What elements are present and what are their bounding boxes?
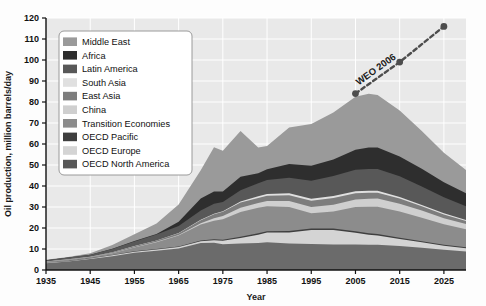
- y-tick-label: 40: [29, 181, 39, 191]
- legend-item-label: Transition Economies: [82, 119, 170, 129]
- y-tick-label: 90: [29, 76, 39, 86]
- legend-swatch: [63, 160, 77, 169]
- y-tick-label: 0: [34, 265, 39, 275]
- x-tick-label: 2015: [390, 276, 410, 286]
- x-tick-label: 1945: [80, 276, 100, 286]
- legend-item-label: OECD Europe: [82, 146, 141, 156]
- legend-item-label: Latin America: [82, 64, 139, 74]
- legend-swatch: [63, 51, 77, 60]
- x-tick-label: 1995: [301, 276, 321, 286]
- x-tick-label: 1985: [257, 276, 277, 286]
- y-tick-label: 100: [24, 55, 39, 65]
- svg-text:Oil production, million barrel: Oil production, million barrels/day: [3, 71, 13, 217]
- y-tick-label: 110: [24, 34, 39, 44]
- x-tick-label: 1965: [169, 276, 189, 286]
- legend-item-label: Africa: [82, 51, 106, 61]
- x-axis-title: Year: [246, 292, 266, 302]
- x-tick-label: 1975: [213, 276, 233, 286]
- legend-item-label: OECD North America: [82, 159, 170, 169]
- x-tick-label: 2025: [434, 276, 454, 286]
- legend-swatch: [63, 133, 77, 142]
- chart-canvas: WEO 2006 0102030405060708090100110120 19…: [0, 0, 486, 306]
- x-tick-label: 1935: [36, 276, 56, 286]
- legend-swatch: [63, 37, 77, 46]
- y-tick-label: 70: [29, 118, 39, 128]
- y-tick-label: 10: [29, 244, 39, 254]
- y-axis-ticks: 0102030405060708090100110120: [24, 13, 46, 275]
- svg-text:Year: Year: [246, 292, 266, 302]
- legend-item-label: China: [82, 105, 107, 115]
- y-tick-label: 80: [29, 97, 39, 107]
- legend-swatch: [63, 78, 77, 87]
- y-axis-title: Oil production, million barrels/day: [3, 71, 13, 217]
- legend-swatch: [63, 65, 77, 74]
- y-tick-label: 20: [29, 223, 39, 233]
- weo-2006-marker: [352, 90, 359, 97]
- legend-swatch: [63, 92, 77, 101]
- legend-item-label: Middle East: [82, 37, 130, 47]
- legend-item-label: South Asia: [82, 78, 127, 88]
- legend-swatch: [63, 105, 77, 114]
- legend-item-label: East Asia: [82, 91, 121, 101]
- y-tick-label: 120: [24, 13, 39, 23]
- legend-swatch: [63, 146, 77, 155]
- x-tick-label: 2005: [345, 276, 365, 286]
- oil-production-chart: WEO 2006 0102030405060708090100110120 19…: [0, 0, 486, 306]
- legend: Middle EastAfricaLatin AmericaSouth Asia…: [59, 31, 192, 175]
- x-tick-label: 1955: [124, 276, 144, 286]
- legend-item-label: OECD Pacific: [82, 132, 139, 142]
- x-axis-ticks: 1935194519551965197519851995200520152025: [36, 270, 454, 286]
- y-tick-label: 60: [29, 139, 39, 149]
- y-tick-label: 50: [29, 160, 39, 170]
- y-tick-label: 30: [29, 202, 39, 212]
- legend-swatch: [63, 119, 77, 128]
- weo-2006-marker: [440, 23, 447, 30]
